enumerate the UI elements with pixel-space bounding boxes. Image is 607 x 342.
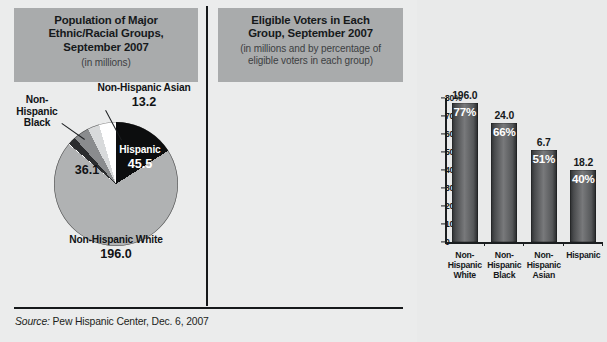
x-axis-category-line: Hispanic xyxy=(514,260,574,270)
y-axis-tick-mark xyxy=(441,151,445,152)
x-axis-tick-mark xyxy=(484,242,485,246)
pie-slice-non-hispanic-asian xyxy=(54,122,178,246)
x-axis-tick-mark xyxy=(523,242,524,246)
bar-value-label: 6.7 xyxy=(514,137,574,148)
y-axis-tick-mark xyxy=(441,223,445,224)
y-axis-tick-mark xyxy=(441,169,445,170)
source-label: Source: xyxy=(15,316,50,327)
population-title-line3: September 2007 xyxy=(14,41,198,54)
population-panel: Population of Major Ethnic/Racial Groups… xyxy=(0,0,208,308)
eligible-voters-panel: Eligible Voters in Each Group, September… xyxy=(208,0,417,308)
source-value: Pew Hispanic Center, Dec. 6, 2007 xyxy=(50,316,209,327)
pie-label-black-name-l3: Black xyxy=(6,117,68,129)
voters-title-line1: Eligible Voters in Each xyxy=(218,14,403,27)
pie-label-hispanic-value: 45.5 xyxy=(104,157,176,172)
pie-chart: Non-Hispanic Asian 13.2 Non- Hispanic Bl… xyxy=(0,82,208,308)
pie-label-non-hispanic-asian: Non-Hispanic Asian 13.2 xyxy=(88,82,200,109)
footer-rule xyxy=(14,307,403,309)
bar-percent-label: 40% xyxy=(553,172,607,185)
bar-value-label: 24.0 xyxy=(474,110,534,121)
pie-label-white-value: 196.0 xyxy=(36,247,196,262)
pie-label-non-hispanic-black: Non- Hispanic Black 36.1 xyxy=(6,94,68,129)
x-axis-category-line: Asian xyxy=(514,270,574,280)
pie-label-white-name: Non-Hispanic White xyxy=(36,234,196,246)
voters-subtitle-line1: (in millions and by percentage of xyxy=(218,43,403,55)
x-axis-tick-mark xyxy=(563,242,564,246)
pie-label-black-name-l2: Hispanic xyxy=(6,106,68,118)
pie-label-asian-value: 13.2 xyxy=(88,95,200,110)
x-axis-tick-mark xyxy=(602,242,603,246)
y-axis-tick-mark xyxy=(441,187,445,188)
population-panel-header: Population of Major Ethnic/Racial Groups… xyxy=(14,8,198,82)
pie-label-black-name-l1: Non- xyxy=(6,94,68,106)
source-note: Source: Pew Hispanic Center, Dec. 6, 200… xyxy=(15,316,209,327)
population-title-line2: Ethnic/Racial Groups, xyxy=(14,27,198,40)
population-title-line1: Population of Major xyxy=(14,14,198,27)
bar-chart: 80%706050403020100196.077%Non-HispanicWh… xyxy=(416,82,607,308)
bar-value-label: 18.2 xyxy=(553,157,607,168)
x-axis-category-label: Hispanic xyxy=(553,250,607,260)
eligible-voters-panel-header: Eligible Voters in Each Group, September… xyxy=(218,8,403,82)
bar-value-label: 196.0 xyxy=(435,90,495,101)
voters-subtitle-line2: eligible voters in each group) xyxy=(218,55,403,67)
x-axis-category-line: Hispanic xyxy=(553,250,607,260)
pie-label-asian-name: Non-Hispanic Asian xyxy=(88,82,200,94)
bar xyxy=(452,103,478,242)
pie-label-hispanic: Hispanic 45.5 xyxy=(104,144,176,171)
y-axis-tick-mark xyxy=(441,133,445,134)
population-subtitle: (in millions) xyxy=(14,57,198,69)
pie-label-hispanic-name: Hispanic xyxy=(104,144,176,156)
y-axis-tick-mark xyxy=(441,241,445,242)
y-axis-tick-mark xyxy=(441,205,445,206)
pie-label-non-hispanic-white: Non-Hispanic White 196.0 xyxy=(36,234,196,261)
voters-title-line2: Group, September 2007 xyxy=(218,27,403,40)
